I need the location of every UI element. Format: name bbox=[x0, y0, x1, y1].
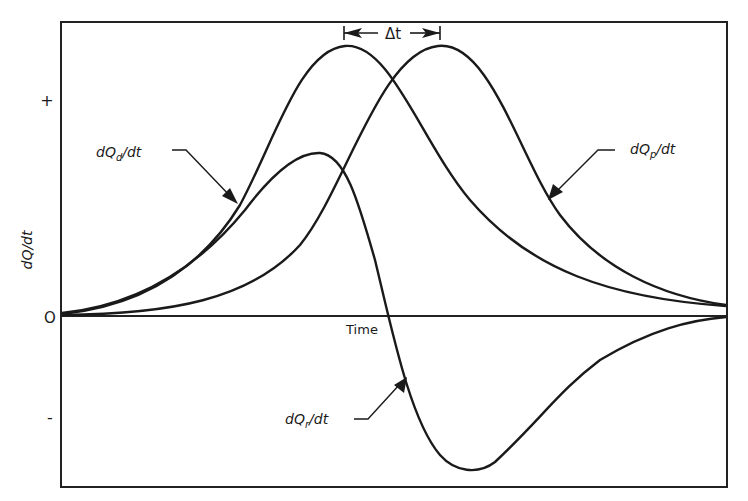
svg-text:dQd/dt: dQd/dt bbox=[96, 144, 142, 163]
diagram-canvas: Δt + O - dQ/dt Time dQd/dt dQp/dt dQr/dt bbox=[0, 0, 748, 501]
y-axis-label: dQ/dt bbox=[19, 230, 35, 270]
y-tick-minus: - bbox=[47, 408, 53, 427]
delta-t-marker: Δt bbox=[344, 25, 440, 43]
curve-dqp bbox=[62, 46, 726, 315]
y-tick-plus: + bbox=[40, 91, 53, 110]
label-dqr: dQr/dt bbox=[285, 377, 407, 430]
svg-text:dQp/dt: dQp/dt bbox=[630, 141, 676, 160]
label-dqp: dQp/dt bbox=[548, 141, 676, 200]
y-tick-zero: O bbox=[44, 309, 56, 327]
plot-frame bbox=[61, 22, 727, 487]
svg-text:dQr/dt: dQr/dt bbox=[285, 411, 329, 430]
curve-dqr bbox=[62, 153, 726, 470]
label-dqd: dQd/dt bbox=[96, 144, 238, 204]
x-axis-label: Time bbox=[345, 322, 378, 337]
delta-t-label: Δt bbox=[385, 25, 401, 43]
arrowhead-icon bbox=[394, 377, 407, 393]
